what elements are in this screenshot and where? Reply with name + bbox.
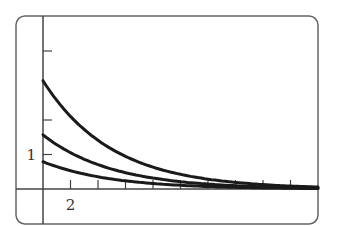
curve-top (43, 81, 318, 187)
axes (16, 16, 318, 224)
chart: 21 (0, 0, 338, 226)
curves (43, 81, 318, 189)
plot-frame (16, 16, 318, 224)
ticks (43, 51, 291, 189)
x-tick-label: 2 (66, 196, 76, 214)
y-tick-label: 1 (26, 146, 36, 164)
tick-labels: 21 (26, 146, 75, 215)
